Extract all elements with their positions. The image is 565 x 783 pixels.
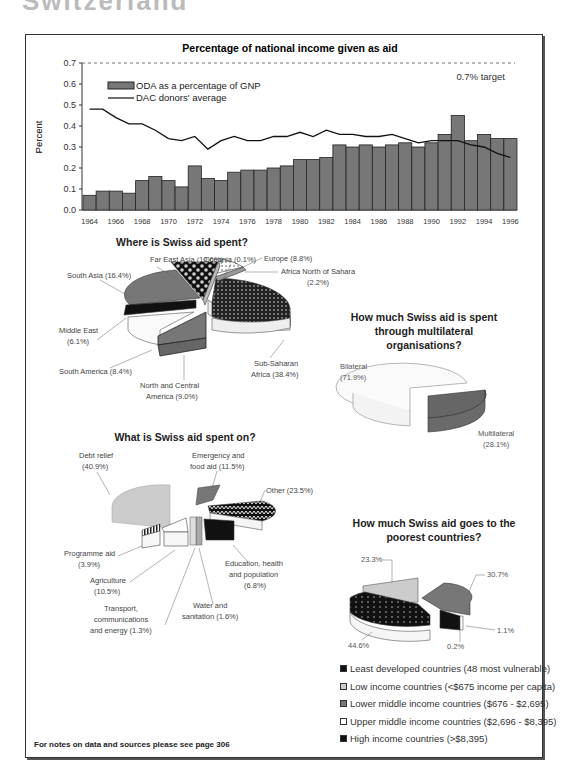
legend-swatch	[340, 683, 347, 690]
svg-text:(28.1%): (28.1%)	[483, 440, 510, 449]
multilateral-pie-chart: How much Swiss aid is spent through mult…	[336, 311, 515, 449]
bar-chart: Percentage of national income given as a…	[33, 42, 519, 226]
label-europe: Europe (8.8%)	[264, 254, 313, 263]
bar-1995	[491, 139, 504, 210]
legend-item: Lower middle income countries ($676 - $2…	[340, 695, 556, 713]
label-bilateral: Bilateral	[340, 362, 367, 371]
x-tick-label: 1982	[318, 217, 335, 226]
bar-1969	[149, 176, 162, 210]
bar-1972	[188, 166, 201, 210]
label-programme-aid: Programme aid	[64, 549, 115, 558]
label-upper-middle-income: 1.1%	[497, 626, 514, 635]
svg-text:poorest countries?: poorest countries?	[386, 531, 481, 543]
svg-text:through multilateral: through multilateral	[375, 325, 474, 337]
x-tick-label: 1984	[344, 217, 361, 226]
label-multilateral: Multilateral	[478, 429, 515, 438]
svg-text:(2.2%): (2.2%)	[307, 278, 330, 287]
svg-text:sanitation (1.6%): sanitation (1.6%)	[182, 612, 239, 621]
svg-text:(3.9%): (3.9%)	[78, 560, 101, 569]
bar-1971	[175, 187, 188, 210]
bar-1982	[320, 158, 333, 211]
legend-label: Least developed countries (48 most vulne…	[350, 663, 550, 674]
bar-1965	[96, 191, 109, 210]
x-tick-label: 1992	[449, 217, 466, 226]
target-label: 0.7% target	[456, 71, 505, 82]
multilateral-pie-title: How much Swiss aid is spent	[351, 311, 498, 323]
x-tick-label: 1980	[292, 217, 309, 226]
legend-label: High income countries (>$8,395)	[350, 733, 488, 744]
label-high-income: 0.2%	[447, 642, 464, 651]
label-water-sanitation: Water and	[193, 601, 227, 610]
legend-label: Upper middle income countries ($2,696 - …	[350, 716, 556, 727]
bar-1975	[228, 172, 241, 210]
label-north-central-america: North and Central	[140, 381, 200, 390]
x-tick-label: 1964	[81, 217, 98, 226]
legend-swatch	[340, 665, 347, 672]
sector-pie-title: What is Swiss aid spent on?	[114, 431, 255, 443]
bar-1973	[201, 179, 214, 211]
region-pie-title: Where is Swiss aid spent?	[116, 236, 248, 248]
bar-1986	[372, 147, 385, 210]
bar-1967	[122, 193, 135, 210]
label-debt-relief: Debt relief	[79, 451, 114, 460]
svg-text:food aid (11.5%): food aid (11.5%)	[190, 462, 245, 471]
bar-1981	[307, 160, 320, 210]
x-tick-label: 1986	[371, 217, 388, 226]
legend-bar-swatch	[108, 82, 134, 89]
poorest-pie-chart: How much Swiss aid goes to the poorest c…	[348, 517, 516, 651]
x-tick-label: 1976	[239, 217, 256, 226]
label-low-income: 23.3%	[361, 555, 383, 564]
label-south-asia: South Asia (16.4%)	[67, 271, 132, 280]
poorest-pie-title: How much Swiss aid goes to the	[353, 517, 516, 529]
sector-pie-chart: What is Swiss aid spent on? Debt relief …	[64, 431, 314, 635]
bar-1991	[438, 134, 451, 210]
x-tick-label: 1990	[423, 217, 440, 226]
y-tick-label: 0.1	[63, 184, 76, 194]
label-sub-saharan-africa: Sub-Saharan	[254, 359, 298, 368]
bar-1966	[109, 191, 122, 210]
legend-swatch	[340, 700, 347, 707]
y-tick-label: 0.2	[63, 163, 76, 173]
x-tick-label: 1988	[397, 217, 414, 226]
label-lower-middle-income: 30.7%	[487, 570, 509, 579]
label-africa-north: Africa North of Sahara	[281, 267, 356, 276]
bar-1974	[215, 181, 228, 210]
label-agriculture: Agriculture	[90, 576, 126, 585]
bar-1968	[136, 181, 149, 210]
bar-1987	[385, 145, 398, 210]
svg-text:organisations?: organisations?	[386, 339, 461, 351]
legend-label: Low income countries (<$675 income per c…	[350, 681, 555, 692]
bar-1976	[241, 170, 254, 210]
svg-text:America (9.0%): America (9.0%)	[146, 392, 198, 401]
bar-chart-title: Percentage of national income given as a…	[182, 42, 397, 54]
svg-text:Africa (38.4%): Africa (38.4%)	[251, 370, 299, 379]
label-oceania: Oceania (0.1%)	[204, 255, 257, 264]
legend-swatch	[340, 735, 347, 742]
svg-text:(6.8%): (6.8%)	[244, 581, 267, 590]
label-education-health: Education, health	[225, 559, 283, 568]
legend-swatch	[340, 718, 347, 725]
legend-item: High income countries (>$8,395)	[340, 730, 556, 748]
y-tick-label: 0.6	[63, 79, 76, 89]
label-other: Other (23.5%)	[266, 486, 314, 495]
x-tick-label: 1972	[186, 217, 203, 226]
bar-1970	[162, 181, 175, 210]
label-least-developed: 44.6%	[348, 641, 370, 650]
y-tick-label: 0.3	[63, 142, 76, 152]
svg-text:(71.9%): (71.9%)	[340, 373, 367, 382]
bar-1977	[254, 170, 267, 210]
legend-item: Low income countries (<$675 income per c…	[340, 678, 556, 696]
x-tick-label: 1996	[502, 217, 519, 226]
bar-1979	[280, 166, 293, 210]
x-tick-label: 1974	[213, 217, 230, 226]
svg-text:(10.5%): (10.5%)	[94, 587, 121, 596]
bar-1980	[293, 160, 306, 210]
bar-1996	[504, 139, 517, 210]
bar-1984	[346, 147, 359, 210]
y-axis-label: Percent	[33, 120, 44, 153]
svg-text:and energy (1.3%): and energy (1.3%)	[90, 626, 152, 635]
y-tick-label: 0.5	[63, 100, 76, 110]
legend-item: Upper middle income countries ($2,696 - …	[340, 713, 556, 731]
bar-1985	[359, 145, 372, 210]
bar-1978	[267, 168, 280, 210]
